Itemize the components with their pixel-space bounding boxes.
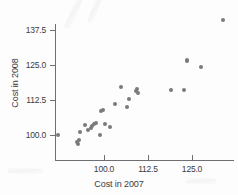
data-point <box>185 58 189 62</box>
data-points-layer <box>0 0 238 195</box>
data-point <box>127 97 131 101</box>
data-point <box>101 108 105 112</box>
data-point <box>119 85 123 89</box>
scatter-plot-figure: 100.0112.5125.0137.5 100.0112.5125.0 Cos… <box>0 0 238 195</box>
data-point <box>113 102 117 106</box>
data-point <box>103 122 107 126</box>
data-point <box>76 142 80 146</box>
x-axis-label: Cost in 2007 <box>0 179 238 189</box>
data-point <box>78 130 82 134</box>
data-point <box>169 88 173 92</box>
data-point <box>56 133 60 137</box>
data-point <box>221 18 225 22</box>
data-point <box>83 123 87 127</box>
data-point <box>94 121 98 125</box>
data-point <box>98 133 102 137</box>
data-point <box>108 125 112 129</box>
data-point <box>182 88 186 92</box>
data-point <box>136 91 140 95</box>
data-point <box>125 105 129 109</box>
data-point <box>77 138 81 142</box>
data-point <box>199 65 203 69</box>
y-axis-label: Cost in 2008 <box>10 28 20 138</box>
